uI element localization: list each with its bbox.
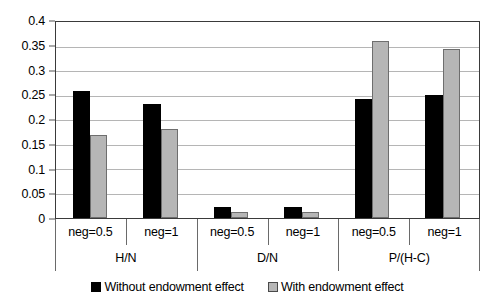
y-tick-label: 0.05	[21, 188, 45, 201]
y-tick-label: 0.3	[28, 64, 45, 77]
bar-with-endowment	[90, 135, 107, 218]
y-tick-label: 0.2	[28, 114, 45, 127]
legend-item-without-endowment-effect: Without endowment effect	[91, 280, 244, 294]
y-tick-label: 0	[38, 213, 45, 226]
legend-item-with-endowment-effect: With endowment effect	[268, 280, 404, 294]
axis-separator	[126, 219, 127, 245]
bar-group	[197, 22, 267, 218]
legend-swatch-icon	[91, 282, 101, 292]
y-tick-label: 0.15	[21, 139, 45, 152]
legend-label: With endowment effect	[281, 280, 404, 294]
x-sub-label: neg=0.5	[197, 219, 268, 245]
bar-without-endowment	[284, 207, 301, 218]
legend-swatch-icon	[268, 282, 278, 292]
plot-area	[55, 21, 480, 219]
x-sub-label: neg=0.5	[55, 219, 126, 245]
bar-chart: 0.4 0.35 0.3 0.25 0.2 0.15 0.1 0.05 0 ne…	[0, 0, 495, 301]
y-tick-label: 0.35	[21, 40, 45, 53]
x-axis: neg=0.5neg=1H/Nneg=0.5neg=1D/Nneg=0.5neg…	[55, 219, 480, 271]
chart-legend: Without endowment effect With endowment …	[0, 276, 495, 298]
axis-separator	[409, 219, 410, 245]
bar-group	[56, 22, 126, 218]
y-axis: 0.4 0.35 0.3 0.25 0.2 0.15 0.1 0.05 0	[0, 21, 55, 219]
axis-separator	[55, 219, 56, 271]
x-sub-label: neg=1	[409, 219, 480, 245]
bar-with-endowment	[231, 212, 248, 218]
bar-without-endowment	[143, 104, 160, 218]
x-group-label: H/N	[55, 245, 197, 271]
x-sub-label: neg=1	[268, 219, 339, 245]
y-tick-label: 0.4	[28, 15, 45, 28]
x-group-label: P/(H-C)	[338, 245, 480, 271]
x-group-label: D/N	[197, 245, 339, 271]
bar-with-endowment	[302, 212, 319, 218]
bar-group	[409, 22, 479, 218]
bar-without-endowment	[355, 99, 372, 218]
x-sub-label: neg=0.5	[338, 219, 409, 245]
axis-separator	[338, 219, 339, 271]
bars-layer	[56, 22, 479, 218]
bar-without-endowment	[73, 91, 90, 218]
bar-group	[338, 22, 408, 218]
y-tick-label: 0.25	[21, 89, 45, 102]
legend-label: Without endowment effect	[104, 280, 244, 294]
y-tick-label: 0.1	[28, 163, 45, 176]
bar-with-endowment	[443, 49, 460, 218]
bar-with-endowment	[161, 129, 178, 218]
bar-group	[268, 22, 338, 218]
bar-without-endowment	[425, 95, 442, 218]
bar-with-endowment	[372, 41, 389, 218]
x-sub-label: neg=1	[126, 219, 197, 245]
bar-group	[126, 22, 196, 218]
bar-without-endowment	[214, 207, 231, 218]
axis-separator	[479, 219, 480, 271]
axis-separator	[197, 219, 198, 271]
axis-separator	[268, 219, 269, 245]
